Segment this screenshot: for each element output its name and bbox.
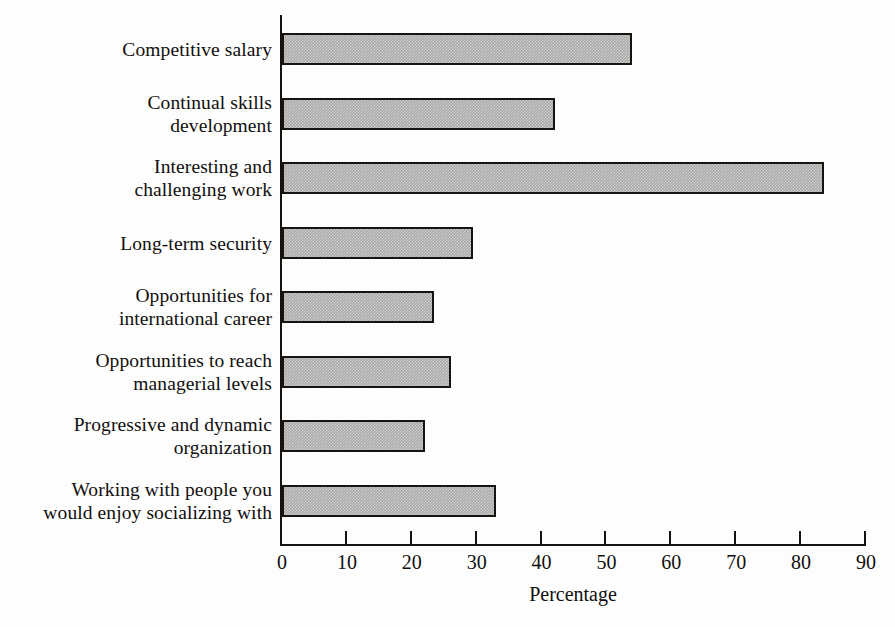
- category-label: Long-term security: [0, 231, 272, 254]
- x-axis-tick: [669, 531, 671, 545]
- x-axis-tick-label: 60: [641, 550, 701, 574]
- x-axis-tick: [540, 531, 542, 545]
- category-label: Competitive salary: [0, 38, 272, 61]
- bar-row: Competitive salary: [0, 33, 895, 65]
- bar-row: Opportunities to reach managerial levels: [0, 356, 895, 388]
- x-axis-tick: [864, 531, 866, 545]
- y-axis-spine: [280, 15, 282, 546]
- x-axis-tick-label: 70: [706, 550, 766, 574]
- x-axis-tick-label: 40: [512, 550, 572, 574]
- bar-chart-figure: Competitive salaryContinual skills devel…: [0, 0, 895, 627]
- bar: [282, 291, 434, 323]
- bar: [282, 98, 555, 130]
- bar: [282, 227, 473, 259]
- x-axis-tick-label: 30: [447, 550, 507, 574]
- bar-row: Continual skills development: [0, 98, 895, 130]
- bar-row: Interesting and challenging work: [0, 162, 895, 194]
- x-axis-tick-label: 90: [836, 550, 895, 574]
- bar: [282, 33, 632, 65]
- bar-row: Progressive and dynamic organization: [0, 420, 895, 452]
- x-axis-tick-label: 20: [382, 550, 442, 574]
- x-axis-tick: [799, 531, 801, 545]
- x-axis-tick-label: 50: [576, 550, 636, 574]
- bar: [282, 420, 425, 452]
- x-axis-tick: [345, 531, 347, 545]
- bar-row: Working with people you would enjoy soci…: [0, 485, 895, 517]
- category-label: Interesting and challenging work: [0, 155, 272, 201]
- category-label: Opportunities for international career: [0, 284, 272, 330]
- bar: [282, 162, 824, 194]
- bar: [282, 485, 496, 517]
- bar-row: Long-term security: [0, 227, 895, 259]
- x-axis-tick-label: 0: [252, 550, 312, 574]
- x-axis-tick: [410, 531, 412, 545]
- bar-row: Opportunities for international career: [0, 291, 895, 323]
- category-label: Continual skills development: [0, 91, 272, 137]
- x-axis-tick-label: 80: [771, 550, 831, 574]
- x-axis-tick: [475, 531, 477, 545]
- category-label: Opportunities to reach managerial levels: [0, 349, 272, 395]
- bar: [282, 356, 451, 388]
- category-label: Working with people you would enjoy soci…: [0, 478, 272, 524]
- x-axis-tick: [734, 531, 736, 545]
- x-axis-tick-label: 10: [317, 550, 377, 574]
- category-label: Progressive and dynamic organization: [0, 413, 272, 459]
- x-axis-spine: [280, 544, 866, 546]
- x-axis-tick: [280, 531, 282, 545]
- x-axis-title: Percentage: [280, 583, 866, 606]
- x-axis-tick: [604, 531, 606, 545]
